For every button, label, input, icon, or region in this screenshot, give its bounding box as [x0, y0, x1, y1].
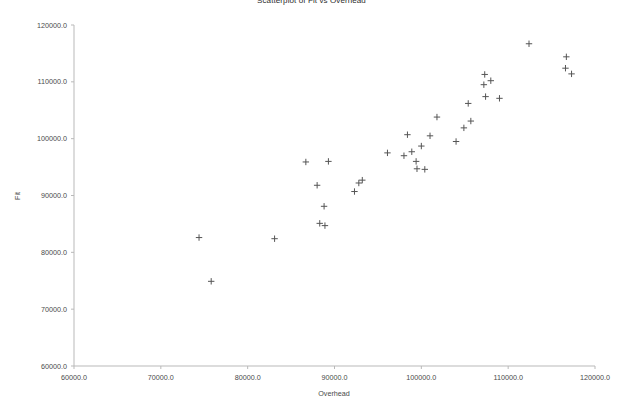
- data-point-marker: [314, 182, 320, 188]
- x-axis-title: Overhead: [318, 389, 350, 398]
- data-point-marker: [482, 71, 488, 77]
- x-tick-label: 70000.0: [148, 373, 174, 382]
- data-point-marker: [427, 133, 433, 139]
- y-tick-label: 100000.0: [37, 134, 67, 143]
- data-point-marker: [422, 166, 428, 172]
- data-point-marker: [481, 81, 487, 87]
- data-point-marker: [461, 125, 467, 131]
- data-point-marker: [413, 158, 419, 164]
- x-tick-label: 110000.0: [493, 373, 522, 382]
- x-tick-label: 60000.0: [61, 373, 87, 382]
- data-point-marker: [271, 235, 277, 241]
- x-tick-label: 120000.0: [580, 373, 610, 382]
- x-tick-label: 80000.0: [235, 373, 261, 382]
- data-point-marker: [568, 71, 574, 77]
- y-tick-label: 90000.0: [41, 191, 67, 200]
- plot-canvas: 60000.070000.080000.090000.0100000.01100…: [0, 0, 623, 414]
- x-tick-label: 100000.0: [406, 373, 436, 382]
- data-point-marker: [384, 150, 390, 156]
- data-point-marker: [414, 166, 420, 172]
- data-point-marker: [351, 188, 357, 194]
- data-point-marker: [488, 77, 494, 83]
- data-point-marker: [526, 41, 532, 47]
- data-point-marker: [404, 131, 410, 137]
- y-tick-label: 110000.0: [38, 77, 67, 86]
- data-point-marker: [482, 93, 488, 99]
- y-tick-label: 70000.0: [41, 305, 67, 314]
- data-point-marker: [359, 177, 365, 183]
- y-tick-label: 120000.0: [37, 21, 67, 30]
- data-point-marker: [562, 65, 568, 71]
- scatter-plot-chart: Scatterplot of Fit vs Overhead 60000.070…: [0, 0, 623, 414]
- y-axis-ticks: 60000.070000.080000.090000.0100000.01100…: [37, 21, 74, 371]
- data-point-marker: [208, 278, 214, 284]
- data-point-marker: [321, 203, 327, 209]
- y-tick-label: 60000.0: [41, 362, 67, 371]
- data-point-marker: [325, 158, 331, 164]
- data-point-marker: [468, 118, 474, 124]
- data-point-marker: [401, 153, 407, 159]
- x-axis-ticks: 60000.070000.080000.090000.0100000.01100…: [61, 366, 610, 382]
- data-point-marker: [409, 149, 415, 155]
- data-point-marker: [496, 95, 502, 101]
- y-tick-label: 80000.0: [41, 248, 67, 257]
- data-point-marker: [465, 100, 471, 106]
- data-point-marker: [453, 138, 459, 144]
- x-tick-label: 90000.0: [322, 373, 348, 382]
- data-point-marker: [303, 159, 309, 165]
- data-point-marker: [563, 54, 569, 60]
- data-point-marker: [196, 234, 202, 240]
- data-point-marker: [434, 114, 440, 120]
- axes-group: [74, 25, 595, 366]
- data-point-marker: [418, 143, 424, 149]
- data-points-layer: [196, 41, 575, 285]
- y-axis-title: Fit: [13, 192, 22, 200]
- data-point-marker: [356, 180, 362, 186]
